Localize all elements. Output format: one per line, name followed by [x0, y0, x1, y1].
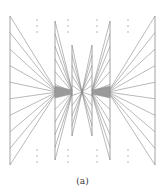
ellipsis-dot	[127, 149, 128, 150]
ray-line	[110, 95, 155, 165]
ellipsis-dot	[96, 161, 97, 162]
ellipsis-dot	[127, 161, 128, 162]
ray-line	[10, 95, 55, 165]
ray-line	[92, 93, 110, 134]
ray-line	[55, 59, 72, 91]
ellipsis-dot	[96, 25, 97, 26]
ray-line	[10, 33, 55, 90]
ray-line	[92, 46, 110, 90]
ray-line	[10, 92, 55, 98]
ellipsis-dot	[96, 149, 97, 150]
ray-line	[55, 21, 72, 90]
ellipsis-dot	[67, 149, 68, 150]
ray-line	[55, 46, 72, 90]
ray-line	[10, 93, 55, 115]
ray-line	[110, 33, 155, 90]
ellipsis-dot	[36, 31, 37, 32]
ellipsis-dot	[127, 31, 128, 32]
ellipsis-dot	[36, 19, 37, 20]
ray-line	[55, 93, 72, 134]
ellipsis-dot	[67, 155, 68, 156]
ray-line	[55, 94, 72, 148]
ray-line	[92, 59, 110, 91]
ellipsis-dot	[96, 31, 97, 32]
ray-line	[72, 92, 82, 126]
ellipsis-dot	[36, 161, 37, 162]
ellipsis-dot	[127, 25, 128, 26]
ray-line	[82, 92, 92, 126]
ellipsis-dot	[127, 155, 128, 156]
ray-line	[110, 92, 155, 98]
shaded-wedge	[92, 86, 110, 98]
ray-line	[110, 94, 155, 148]
ray-fan-diagram	[0, 0, 165, 196]
ellipsis-dot	[36, 25, 37, 26]
ellipsis-dot	[67, 161, 68, 162]
ray-line	[110, 94, 155, 132]
ellipsis-dot	[67, 19, 68, 20]
ellipsis-dot	[67, 25, 68, 26]
ray-line	[10, 94, 55, 148]
ellipsis-dot	[96, 155, 97, 156]
ray-line	[110, 93, 155, 115]
figure-caption: (a)	[0, 176, 165, 186]
ellipsis-dot	[67, 31, 68, 32]
ellipsis-dot	[36, 155, 37, 156]
ray-line	[92, 94, 110, 148]
ray-line	[92, 21, 110, 90]
ray-line	[10, 94, 55, 132]
shaded-wedge	[55, 86, 72, 98]
ellipsis-dot	[127, 19, 128, 20]
ellipsis-dot	[36, 149, 37, 150]
ray-line	[55, 94, 72, 160]
ellipsis-dot	[96, 19, 97, 20]
ray-line	[92, 94, 110, 160]
